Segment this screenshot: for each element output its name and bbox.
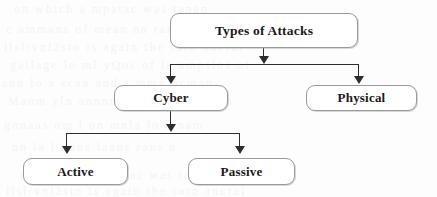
edge-cyber-to-passive-arrowhead	[235, 146, 245, 154]
node-label: Types of Attacks	[215, 23, 313, 39]
diagram-canvas: on which a mpatac was tanan c ammans of …	[0, 0, 437, 197]
node-passive[interactable]: Passive	[188, 158, 295, 185]
node-label: Physical	[338, 90, 386, 106]
edge-root-to-cyber-arrowhead	[166, 76, 176, 84]
node-cyber[interactable]: Cyber	[114, 85, 228, 111]
edge-cyber-to-passive	[239, 133, 240, 147]
edge-cyber-to-active-arrowhead	[62, 146, 72, 154]
node-active[interactable]: Active	[23, 158, 128, 185]
edge-root-to-physical-arrowhead	[354, 76, 364, 84]
node-label: Active	[57, 164, 94, 180]
node-label: Cyber	[153, 90, 189, 106]
node-types-of-attacks[interactable]: Types of Attacks	[170, 13, 358, 48]
edge-cyber-stem-arrowhead	[166, 124, 176, 132]
node-label: Passive	[221, 164, 263, 180]
edge-cyber-bus	[66, 133, 240, 134]
edge-root-stem-arrowhead	[259, 56, 269, 64]
edge-root-bus	[170, 64, 359, 65]
node-physical[interactable]: Physical	[306, 85, 417, 111]
edge-cyber-to-active	[66, 133, 67, 147]
